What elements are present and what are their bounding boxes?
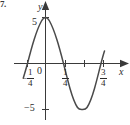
y-tick-label-neg-five: −5	[24, 103, 35, 113]
x-tick-label-one-quarter: 1 4	[62, 68, 69, 88]
fraction-numerator: 1	[27, 68, 34, 77]
y-axis-arrowhead	[42, 1, 49, 10]
graph-figure: 7. y x 5 −5 0 − 1 4	[0, 0, 130, 125]
coordinate-plot-svg	[0, 0, 130, 125]
y-tick-label-five: 5	[32, 17, 37, 27]
x-tick-label-neg-one-quarter: − 1 4	[22, 68, 34, 88]
fraction-denominator: 4	[27, 79, 34, 88]
fraction-one-quarter: 1 4	[62, 68, 69, 88]
fraction-neg-one-quarter: 1 4	[27, 68, 34, 88]
origin-label: 0	[37, 66, 42, 76]
fraction-denominator: 4	[100, 79, 107, 88]
x-tick-label-three-quarters: 3 4	[100, 68, 107, 88]
x-axis-label: x	[119, 67, 123, 77]
y-axis-label: y	[38, 2, 42, 12]
fraction-numerator: 3	[100, 68, 107, 77]
fraction-three-quarters: 3 4	[100, 68, 107, 88]
fraction-denominator: 4	[62, 79, 69, 88]
fraction-numerator: 1	[62, 68, 69, 77]
